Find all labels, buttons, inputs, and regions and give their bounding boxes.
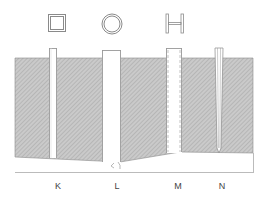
label-l: L — [114, 181, 119, 191]
post-k — [49, 48, 57, 158]
square-profile-icon — [49, 15, 66, 32]
label-m: M — [174, 181, 182, 191]
post-diagram: K L M N — [0, 0, 265, 201]
label-n: N — [219, 181, 226, 191]
label-k: K — [55, 181, 61, 191]
circle-profile-icon — [102, 14, 122, 34]
post-m — [166, 48, 182, 153]
post-l — [102, 50, 121, 169]
h-beam-profile-icon — [166, 14, 184, 33]
